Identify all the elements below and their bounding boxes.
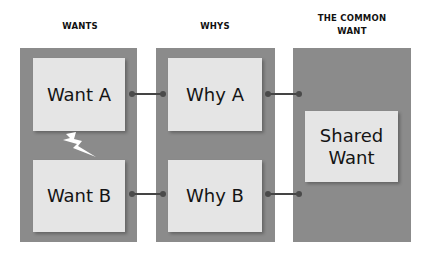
connector-dot (160, 191, 166, 197)
want-b-box: Want B (33, 160, 125, 232)
connector-dot (129, 191, 135, 197)
heading-common-want-line2: WANT (292, 25, 412, 38)
heading-wants: WANTS (30, 20, 130, 33)
connector-want-b-why-b (132, 193, 163, 195)
connector-dot (265, 191, 271, 197)
connector-dot (160, 91, 166, 97)
connector-want-a-why-a (132, 93, 163, 95)
shared-want-line1: Shared (320, 125, 383, 147)
connector-why-b-shared (268, 193, 299, 195)
connector-dot (296, 91, 302, 97)
want-a-box: Want A (33, 58, 125, 131)
why-a-box: Why A (168, 58, 262, 131)
lightning-bolt-icon (58, 132, 98, 159)
heading-common-want: THE COMMON WANT (292, 12, 412, 38)
want-a-label: Want A (47, 84, 111, 106)
heading-whys: WHYS (165, 20, 265, 33)
shared-want-box: Shared Want (305, 111, 398, 182)
want-b-label: Want B (47, 185, 111, 207)
heading-common-want-line1: THE COMMON (292, 12, 412, 25)
connector-dot (296, 191, 302, 197)
connector-why-a-shared (268, 93, 299, 95)
connector-dot (265, 91, 271, 97)
connector-dot (129, 91, 135, 97)
why-b-box: Why B (168, 160, 262, 232)
shared-want-line2: Want (328, 147, 374, 169)
why-a-label: Why A (186, 84, 244, 106)
why-b-label: Why B (186, 185, 244, 207)
